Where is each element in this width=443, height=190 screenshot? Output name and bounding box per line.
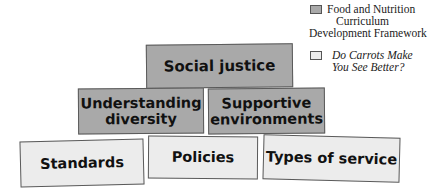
box-label: Types of service (266, 149, 398, 168)
legend-swatch-carrots (310, 51, 322, 60)
box-label: Policies (172, 149, 235, 166)
box-label: Standards (40, 154, 124, 172)
box-social-justice: Social justice (146, 43, 293, 89)
box-label: Supportive environments (210, 94, 323, 127)
legend-label-carrots: Do Carrots Make You See Better? (332, 49, 413, 73)
box-policies: Policies (148, 136, 258, 180)
legend-label-framework-line3: Development Framework (309, 27, 427, 39)
legend-label-framework: Food and Nutrition Curriculum (327, 3, 415, 27)
box-standards: Standards (19, 138, 144, 187)
legend-swatch-framework (310, 5, 322, 14)
box-label: Understanding diversity (80, 94, 201, 127)
box-supportive-environments: Supportive environments (208, 87, 325, 134)
box-label: Social justice (164, 57, 276, 75)
box-understanding-diversity: Understanding diversity (78, 88, 204, 135)
box-types-of-service: Types of service (262, 134, 400, 182)
